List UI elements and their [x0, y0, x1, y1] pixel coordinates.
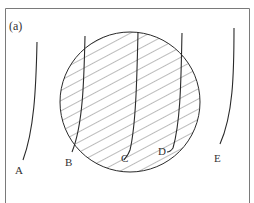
curve-label-b: B	[65, 156, 72, 168]
figure-panel: (a) A B C D E	[0, 0, 254, 203]
hatched-circle	[55, 28, 205, 178]
curve-label-c: C	[121, 152, 128, 164]
curve-a	[23, 42, 37, 160]
curve-label-e: E	[214, 152, 221, 164]
venn-curve-diagram: (a) A B C D E	[0, 0, 254, 203]
panel-label: (a)	[9, 19, 22, 33]
curve-label-d: D	[158, 145, 166, 157]
curve-e	[220, 28, 234, 144]
curve-label-a: A	[15, 164, 23, 176]
